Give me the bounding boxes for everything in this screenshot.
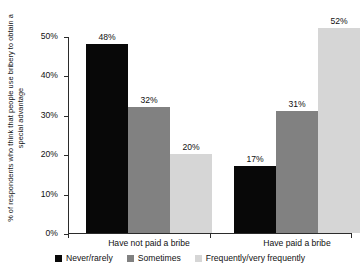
y-axis-tick-label: 50% — [41, 31, 58, 41]
y-axis-tick-label: 40% — [41, 70, 58, 80]
y-axis-tick: 30% — [64, 116, 68, 117]
bar: 17% — [234, 166, 276, 233]
x-axis-tick — [68, 234, 69, 238]
bar-value-label: 52% — [330, 16, 347, 26]
legend-swatch — [127, 255, 134, 262]
legend-swatch — [55, 255, 62, 262]
bar: 32% — [128, 107, 170, 233]
y-axis-tick: 10% — [64, 195, 68, 196]
legend-item[interactable]: Sometimes — [127, 253, 181, 263]
legend-label: Never/rarely — [66, 253, 113, 263]
bar: 31% — [276, 111, 318, 233]
legend-label: Frequently/very frequently — [206, 253, 305, 263]
legend-label: Sometimes — [138, 253, 181, 263]
bar: 52% — [318, 28, 360, 233]
legend-swatch — [195, 255, 202, 262]
bar-value-label: 20% — [182, 142, 199, 152]
y-axis-line — [68, 37, 69, 234]
bar-value-label: 32% — [140, 95, 157, 105]
y-axis-tick: 20% — [64, 155, 68, 156]
bar-value-label: 31% — [288, 99, 305, 109]
y-axis-tick-label: 20% — [41, 149, 58, 159]
legend-item[interactable]: Never/rarely — [55, 253, 113, 263]
legend: Never/rarelySometimesFrequently/very fre… — [0, 253, 360, 263]
legend-item[interactable]: Frequently/very frequently — [195, 253, 305, 263]
bar: 48% — [86, 44, 128, 233]
bar-chart: % of respondents who think that people u… — [0, 0, 360, 270]
bar-value-label: 48% — [98, 32, 115, 42]
bar-value-label: 17% — [246, 154, 263, 164]
y-axis-tick-label: 0% — [46, 228, 58, 238]
y-axis-tick-label: 30% — [41, 110, 58, 120]
y-axis-tick: 50% — [64, 37, 68, 38]
x-axis-category-label: Have not paid a bribe — [79, 238, 219, 248]
bar: 20% — [170, 154, 212, 233]
y-axis-tick-label: 10% — [41, 189, 58, 199]
x-axis-category-label: Have paid a bribe — [227, 238, 360, 248]
y-axis-tick: 40% — [64, 76, 68, 77]
y-axis-title: % of respondents who think that people u… — [6, 2, 34, 234]
plot-area: 0%10%20%30%40%50% 48%32%20%17%31%52% — [68, 12, 352, 234]
